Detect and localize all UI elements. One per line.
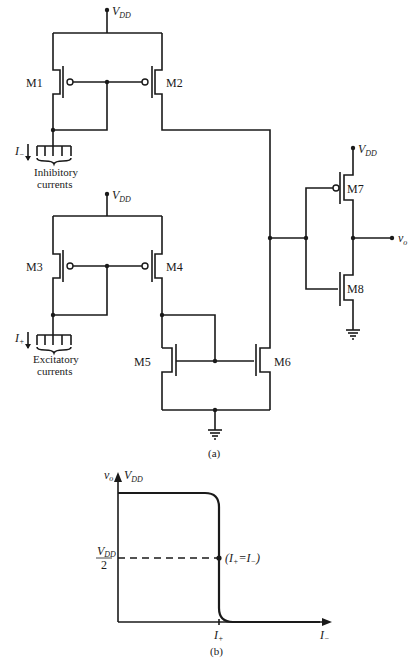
inverter-m7-m8: VDD M7 vo M8 — [268, 142, 408, 339]
mirror-m5-m6: M5 M6 (a) — [134, 238, 291, 460]
vdd-label-mid: VDD — [112, 188, 131, 204]
crossover-point — [216, 555, 221, 560]
caption-b: (b) — [210, 645, 223, 658]
currents-label-1: currents — [37, 178, 72, 190]
label-m2: M2 — [166, 76, 183, 90]
output-terminal — [390, 236, 394, 240]
mirror-m3-m4: VDD M3 M4 I+ Excitatory currents — [14, 188, 183, 377]
x-tick-i-plus: I+ — [213, 628, 223, 643]
vdd-label-top: VDD — [112, 4, 131, 20]
label-m8: M8 — [347, 282, 364, 296]
i-minus-label: I− — [14, 144, 24, 159]
mirror-m1-m2: VDD M1 M2 I− Inhibitory cu — [14, 4, 270, 238]
label-m7: M7 — [347, 182, 364, 196]
ground-symbol-bottom — [208, 430, 222, 439]
label-m3: M3 — [26, 260, 43, 274]
transfer-characteristic-chart: vo VDD I− I+ (I+=I−) VDD 2 (b) — [96, 468, 332, 658]
label-m6: M6 — [274, 355, 291, 369]
circuit-figure: VDD M1 M2 I− Inhibitory cu — [0, 0, 418, 666]
ground-symbol-inverter — [346, 330, 360, 339]
label-m4: M4 — [166, 260, 183, 274]
crossover-annotation: (I+=I−) — [225, 551, 260, 566]
inhibitory-label: Inhibitory — [34, 166, 78, 178]
y-axis-label: vo — [104, 468, 113, 483]
inhibitory-current-sources — [37, 146, 71, 164]
excitatory-label: Excitatory — [33, 353, 79, 365]
vdd-top-label: VDD — [124, 468, 143, 484]
vdd-label-inverter: VDD — [358, 142, 377, 158]
caption-a: (a) — [208, 447, 221, 460]
vdd-half-numerator: VDD — [97, 544, 116, 559]
x-axis-label: I− — [319, 628, 329, 643]
vdd-half-denominator: 2 — [101, 558, 107, 572]
i-plus-label: I+ — [14, 331, 24, 346]
label-m1: M1 — [26, 76, 43, 90]
currents-label-2: currents — [37, 365, 72, 377]
vo-label-circuit: vo — [398, 231, 407, 247]
label-m5: M5 — [134, 355, 151, 369]
excitatory-current-sources — [37, 335, 71, 353]
